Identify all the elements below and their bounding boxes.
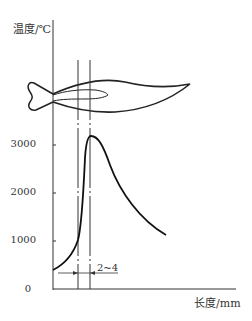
- flame-diagram: [0, 0, 252, 321]
- y-tick-2000: 2000: [4, 186, 36, 197]
- dimension-arrow-right: [90, 271, 95, 275]
- x-axis-label: 长度/mm: [194, 294, 241, 310]
- y-tick-1000: 1000: [4, 234, 36, 245]
- y-axis-label: 温度/℃: [13, 20, 51, 36]
- dimension-label: 2~4: [97, 262, 118, 273]
- torch-nozzle: [28, 83, 53, 111]
- outer-flame: [53, 81, 190, 113]
- dimension-arrow-left: [73, 271, 78, 275]
- temperature-curve: [53, 136, 166, 270]
- y-tick-0: 0: [4, 283, 31, 294]
- inner-cone: [53, 90, 108, 101]
- y-tick-3000: 3000: [4, 138, 36, 149]
